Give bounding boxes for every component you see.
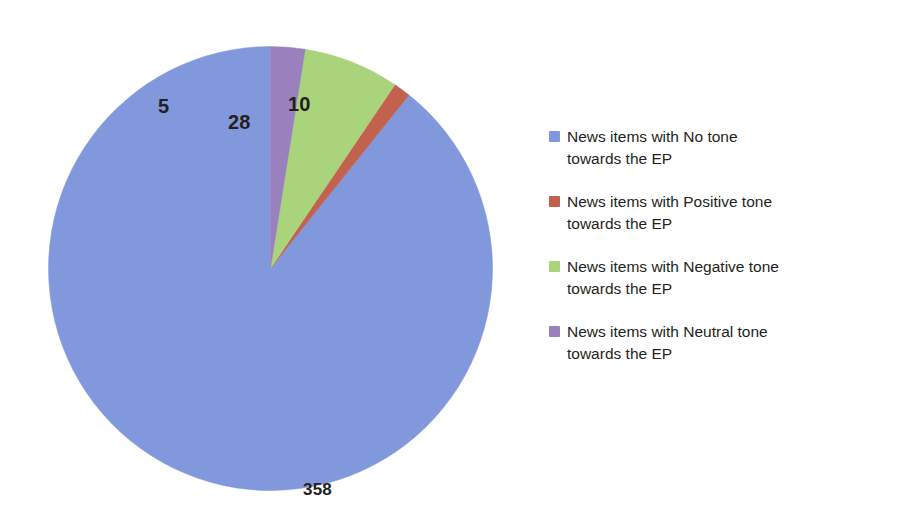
legend-label-negative-tone-line1: News items with Negative tone bbox=[567, 258, 779, 275]
legend-item-positive-tone: News items with Positive tone towards th… bbox=[549, 191, 899, 235]
legend-label-no-tone-line1: News items with No tone bbox=[567, 128, 738, 145]
pie-chart-graphic: 5 28 10 358 bbox=[48, 46, 493, 491]
pie-slice-group bbox=[49, 47, 493, 491]
pie-value-label-negative: 28 bbox=[228, 112, 251, 132]
legend-label-neutral-tone-line2: towards the EP bbox=[567, 345, 672, 362]
legend-label-neutral-tone-line1: News items with Neutral tone bbox=[567, 323, 768, 340]
legend-swatch-no-tone bbox=[549, 131, 560, 142]
pie-chart-page: 5 28 10 358 News items with No tone towa… bbox=[0, 0, 918, 527]
legend-label-no-tone: News items with No tone towards the EP bbox=[567, 126, 738, 170]
pie-svg bbox=[48, 46, 493, 491]
legend-item-negative-tone: News items with Negative tone towards th… bbox=[549, 256, 899, 300]
chart-legend: News items with No tone towards the EP N… bbox=[549, 126, 899, 365]
legend-label-positive-tone-line1: News items with Positive tone bbox=[567, 193, 772, 210]
legend-label-positive-tone-line2: towards the EP bbox=[567, 215, 672, 232]
legend-label-neutral-tone: News items with Neutral tone towards the… bbox=[567, 321, 768, 365]
pie-value-label-no-tone: 358 bbox=[303, 481, 332, 498]
legend-swatch-neutral-tone bbox=[549, 326, 560, 337]
legend-label-negative-tone: News items with Negative tone towards th… bbox=[567, 256, 779, 300]
legend-item-neutral-tone: News items with Neutral tone towards the… bbox=[549, 321, 899, 365]
legend-label-no-tone-line2: towards the EP bbox=[567, 150, 672, 167]
pie-value-label-positive: 5 bbox=[158, 96, 169, 116]
pie-value-label-neutral: 10 bbox=[288, 94, 311, 114]
legend-item-no-tone: News items with No tone towards the EP bbox=[549, 126, 899, 170]
legend-swatch-positive-tone bbox=[549, 196, 560, 207]
legend-label-positive-tone: News items with Positive tone towards th… bbox=[567, 191, 772, 235]
legend-label-negative-tone-line2: towards the EP bbox=[567, 280, 672, 297]
legend-swatch-negative-tone bbox=[549, 261, 560, 272]
